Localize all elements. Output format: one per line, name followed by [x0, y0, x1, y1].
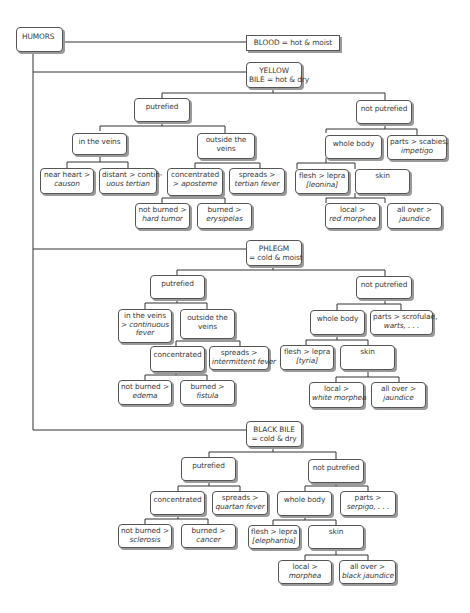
yb-in-veins-node: in the veins — [72, 133, 127, 155]
yb-burned-node: burned > erysipelas — [197, 203, 252, 229]
yb-in-veins-label: in the veins — [75, 138, 124, 147]
ph-whole-body-label: whole body — [313, 315, 362, 324]
yb-distant-node: distant > contin- uous tertian — [99, 168, 157, 194]
ph-all-over-node: all over > jaundice — [371, 382, 426, 408]
ph-burned-l2: fistula — [183, 392, 232, 401]
bb-flesh-l2: [elephantia] — [251, 537, 297, 546]
bb-spreads-l2: quartan fever — [215, 503, 265, 512]
bb-skin-label: skin — [311, 528, 361, 537]
phlegm-label-2: = cold & moist — [249, 254, 299, 263]
bb-whole-body-node: whole body — [277, 491, 332, 516]
yb-concentrated-node: concentrated > aposteme — [167, 168, 223, 196]
bb-parts-node: parts > serpigo, . . . — [340, 491, 396, 516]
yb-outside-l2: veins — [200, 145, 252, 154]
ph-whole-body-node: whole body — [310, 310, 365, 335]
ph-all-over-l2: jaundice — [374, 394, 423, 403]
humors-root-node: HUMORS — [16, 27, 63, 52]
ph-skin-label: skin — [343, 348, 392, 357]
ph-concentrated-node: concentrated — [150, 346, 205, 372]
ph-flesh-node: flesh > lepra [tyria] — [280, 345, 334, 370]
yb-whole-body-node: whole body — [325, 135, 382, 159]
bb-local-l2: morphea — [281, 572, 329, 581]
yb-all-over-node: all over > jaundice — [387, 203, 442, 229]
bb-skin-node: skin — [308, 525, 364, 549]
ph-outside-veins-node: outside the veins — [180, 309, 235, 339]
bb-not-putrefied-node: not putrefied — [308, 459, 364, 483]
yb-not-burned-node: not burned > hard tumor — [135, 203, 190, 229]
bb-burned-node: burned > cancer — [181, 524, 236, 548]
yb-local-l2: red morphea — [328, 215, 377, 224]
ph-spreads-l2: intermittent fever — [212, 358, 266, 367]
yb-concentrated-l2: > aposteme — [170, 180, 220, 189]
yb-burned-l2: erysipelas — [200, 215, 249, 224]
ph-putrefied-node: putrefied — [150, 275, 205, 299]
yb-distant-l2: uous tertian — [102, 180, 154, 189]
black-bile-node: BLACK BILE = cold & dry — [246, 421, 302, 447]
yb-not-putrefied-node: not putrefied — [356, 100, 412, 124]
yellow-bile-label-2: BILE = hot & dry — [249, 76, 299, 85]
phlegm-node: PHLEGM = cold & moist — [246, 240, 302, 266]
bb-burned-l2: cancer — [184, 536, 233, 545]
yb-putrefied-node: putrefied — [134, 98, 190, 122]
yb-skin-label: skin — [358, 172, 407, 181]
ph-putrefied-label: putrefied — [153, 280, 202, 289]
humors-tree-diagram: HUMORS BLOOD = hot & moist YELLOW BILE =… — [0, 0, 470, 613]
blood-node: BLOOD = hot & moist — [246, 35, 340, 51]
ph-burned-node: burned > fistula — [180, 380, 235, 405]
ph-flesh-l2: [tyria] — [283, 357, 331, 366]
bb-concentrated-node: concentrated — [150, 491, 205, 515]
yb-all-over-l2: jaundice — [390, 215, 439, 224]
ph-concentrated-label: concentrated — [153, 351, 202, 360]
bb-parts-l2: serpigo, . . . — [343, 503, 393, 512]
bb-spreads-node: spreads > quartan fever — [212, 491, 268, 515]
ph-not-putrefied-label: not putrefied — [359, 281, 409, 290]
yb-spreads-l2: tertian fever — [232, 180, 282, 189]
ph-skin-node: skin — [340, 345, 395, 370]
yb-spreads-node: spreads > tertian fever — [229, 168, 285, 194]
bb-not-burned-node: not burned > sclerosis — [118, 524, 172, 548]
ph-not-burned-node: not burned > edema — [118, 380, 172, 405]
bb-putrefied-node: putrefied — [181, 457, 236, 481]
yb-not-putrefied-label: not putrefied — [359, 105, 409, 114]
bb-putrefied-label: putrefied — [184, 462, 233, 471]
ph-not-putrefied-node: not putrefied — [356, 276, 412, 299]
yb-outside-veins-node: outside the veins — [197, 133, 255, 159]
ph-local-node: local > white morphea — [309, 382, 364, 408]
ph-not-burned-l2: edema — [121, 392, 169, 401]
yb-parts-node: parts > scabies, impetigo — [387, 135, 447, 160]
yb-near-heart-l2: causon — [43, 180, 91, 189]
yb-skin-node: skin — [355, 169, 410, 194]
bb-not-burned-l2: sclerosis — [121, 536, 169, 545]
yb-whole-body-label: whole body — [328, 140, 379, 149]
ph-local-l2: white morphea — [312, 394, 361, 403]
bb-local-node: local > morphea — [278, 560, 332, 584]
ph-outside-l2: veins — [183, 323, 232, 332]
yb-putrefied-label: putrefied — [137, 103, 187, 112]
bb-all-over-l2: black jaundice — [342, 572, 393, 581]
ph-in-veins-l3: fever — [121, 329, 169, 338]
ph-parts-node: parts > scrofulae, warts, . . . — [370, 310, 433, 335]
bb-concentrated-label: concentrated — [153, 496, 202, 505]
ph-spreads-node: spreads > intermittent fever — [209, 346, 269, 370]
connector-lines — [0, 0, 470, 613]
ph-in-veins-node: in the veins > continuous fever — [118, 309, 172, 343]
yb-not-burned-l2: hard tumor — [138, 215, 187, 224]
yb-flesh-l2: [leonina] — [298, 181, 346, 190]
yb-local-node: local > red morphea — [325, 203, 380, 229]
black-bile-label-2: = cold & dry — [249, 435, 299, 444]
yb-parts-l2: impetigo — [390, 147, 444, 156]
blood-label: BLOOD = hot & moist — [249, 39, 337, 48]
yellow-bile-node: YELLOW BILE = hot & dry — [246, 62, 302, 88]
bb-not-putrefied-label: not putrefied — [311, 464, 361, 473]
bb-all-over-node: all over > black jaundice — [339, 560, 396, 584]
bb-flesh-node: flesh > lepra [elephantia] — [248, 525, 300, 549]
bb-whole-body-label: whole body — [280, 496, 329, 505]
yb-near-heart-node: near heart > causon — [40, 168, 94, 194]
humors-label: HUMORS — [22, 33, 60, 42]
yb-flesh-node: flesh > lepra [leonina] — [295, 169, 349, 194]
ph-parts-l2: warts, . . . — [373, 322, 430, 331]
